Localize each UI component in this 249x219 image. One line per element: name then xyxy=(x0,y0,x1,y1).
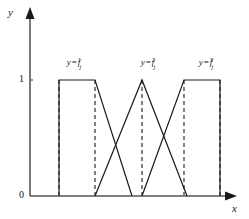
curve-f-j-2 xyxy=(95,80,187,196)
curve-f-j-3 xyxy=(142,80,220,196)
y-axis-arrowhead xyxy=(26,7,35,19)
curve-label-1-sup: 1 xyxy=(78,56,81,63)
y-axis-label: y xyxy=(8,7,13,18)
curve-label-2-sup: 2 xyxy=(152,56,155,63)
curve-label-2-sub: j xyxy=(154,63,156,70)
plot-canvas xyxy=(0,0,249,219)
y-tick-label-zero: 0 xyxy=(10,190,24,200)
curve-label-f-j-2: y=f2j xyxy=(141,58,160,67)
curve-label-1-sub: j xyxy=(80,63,82,70)
curve-label-f-j-1: y=f1j xyxy=(67,58,86,67)
curve-label-3-sup: 3 xyxy=(210,56,213,63)
curve-label-3-sub: j xyxy=(212,63,214,70)
fuzzy-membership-function-figure: y x 1 0 y=f1j y=f2j y=f3j xyxy=(0,0,249,219)
curve-label-f-j-3: y=f3j xyxy=(199,58,218,67)
x-axis-arrowhead xyxy=(225,192,237,201)
x-axis-label: x xyxy=(232,203,237,214)
y-tick-label-one: 1 xyxy=(10,74,24,84)
